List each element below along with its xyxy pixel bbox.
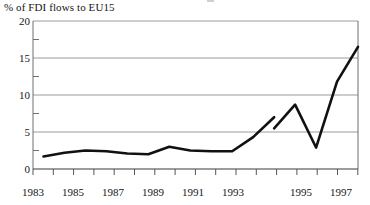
chart-container: % of FDI flows to EU15 20 15 10 5 0 1983… <box>0 0 370 205</box>
gridlines-group <box>33 21 358 132</box>
x-ticks-group <box>33 169 358 175</box>
chart-plot-svg <box>0 0 370 205</box>
data-line-segment-1 <box>43 117 274 156</box>
